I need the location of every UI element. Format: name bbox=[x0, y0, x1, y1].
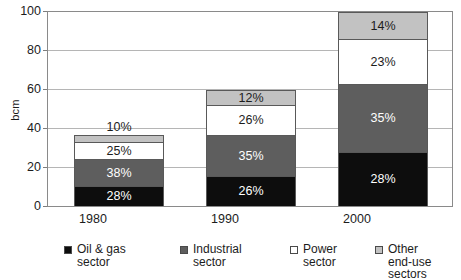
y-tick-label-0: 0 bbox=[7, 200, 41, 212]
y-axis-ticks: 100 80 60 40 20 0 bbox=[0, 0, 41, 280]
bar-2000-label-other: 14% bbox=[370, 20, 395, 33]
y-tick-label-20: 20 bbox=[7, 161, 41, 173]
bar-2000-segment-oil-gas[interactable]: 28% bbox=[338, 152, 428, 206]
x-tick-label-1980: 1980 bbox=[48, 212, 138, 226]
bar-2000-label-power: 23% bbox=[370, 56, 395, 69]
bar-2000[interactable]: 28% 35% 23% 14% bbox=[338, 12, 428, 206]
bar-2000-segment-power[interactable]: 23% bbox=[338, 39, 428, 84]
bar-2000-label-oil-gas: 28% bbox=[370, 173, 395, 186]
bar-1990-segment-other[interactable]: 12% bbox=[206, 90, 296, 105]
bar-2000-segment-industrial[interactable]: 35% bbox=[338, 84, 428, 152]
bar-1990[interactable]: 26% 35% 26% 12% bbox=[206, 90, 296, 206]
bar-1980-label-oil-gas: 28% bbox=[106, 190, 131, 203]
bar-1990-segment-industrial[interactable]: 35% bbox=[206, 135, 296, 176]
legend-label-industrial: Industrial sector bbox=[193, 243, 242, 268]
x-tick-label-1990: 1990 bbox=[180, 212, 270, 226]
legend-item-oil-gas[interactable]: Oil & gas sector bbox=[64, 243, 126, 268]
x-tick-label-2000: 2000 bbox=[312, 212, 402, 226]
legend-swatch-industrial-icon bbox=[180, 246, 188, 254]
legend-swatch-other-icon bbox=[375, 246, 383, 254]
bar-2000-segment-other[interactable]: 14% bbox=[338, 12, 428, 39]
stacked-bar-chart: bcm 100 80 60 40 20 0 28% 38% 25 bbox=[0, 0, 461, 280]
bar-1980-label-power: 25% bbox=[106, 145, 131, 158]
bar-1990-segment-power[interactable]: 26% bbox=[206, 105, 296, 135]
bar-1980-segment-power[interactable]: 25% bbox=[74, 142, 164, 160]
bar-1990-label-industrial: 35% bbox=[238, 150, 263, 163]
bar-1980-segment-industrial[interactable]: 38% bbox=[74, 159, 164, 186]
legend-label-other: Other end-use sectors bbox=[388, 243, 431, 280]
legend-label-power: Power sector bbox=[303, 243, 337, 268]
y-tick-label-80: 80 bbox=[7, 44, 41, 56]
legend-item-other[interactable]: Other end-use sectors bbox=[375, 243, 431, 280]
chart-legend: Oil & gas sector Industrial sector Power… bbox=[47, 243, 457, 280]
bar-1990-label-oil-gas: 26% bbox=[238, 185, 263, 198]
bar-1990-segment-oil-gas[interactable]: 26% bbox=[206, 176, 296, 206]
y-tick-label-40: 40 bbox=[7, 122, 41, 134]
bar-2000-label-industrial: 35% bbox=[370, 112, 395, 125]
bar-1980[interactable]: 28% 38% 25% 10% bbox=[74, 135, 164, 206]
legend-swatch-oil-gas-icon bbox=[64, 246, 72, 254]
y-tick-label-60: 60 bbox=[7, 83, 41, 95]
y-tick-label-100: 100 bbox=[7, 5, 41, 17]
bar-1980-segment-other[interactable]: 10% bbox=[74, 135, 164, 141]
legend-label-oil-gas: Oil & gas sector bbox=[77, 243, 126, 268]
legend-item-power[interactable]: Power sector bbox=[290, 243, 337, 268]
plot-area: 28% 38% 25% 10% 26% 35% 26% 12 bbox=[47, 11, 453, 207]
bar-1990-label-power: 26% bbox=[238, 114, 263, 127]
bar-1980-segment-oil-gas[interactable]: 28% bbox=[74, 186, 164, 206]
legend-swatch-power-icon bbox=[290, 246, 298, 254]
bar-1980-label-industrial: 38% bbox=[106, 167, 131, 180]
legend-item-industrial[interactable]: Industrial sector bbox=[180, 243, 242, 268]
bar-1990-label-other: 12% bbox=[238, 92, 263, 105]
